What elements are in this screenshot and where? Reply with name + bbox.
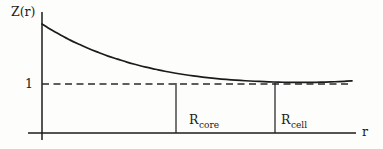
figure-canvas: Z(r) 1 r Rcore Rcell (0, 0, 383, 149)
y-tick-label-one: 1 (25, 78, 33, 91)
x-axis-label: r (362, 126, 368, 139)
y-axis-label: Z(r) (11, 6, 35, 19)
marker-label-r-core-base: R (189, 112, 198, 127)
marker-label-r-cell: Rcell (281, 111, 307, 127)
marker-label-r-cell-base: R (281, 112, 290, 127)
marker-label-r-cell-subscript: cell (291, 120, 307, 130)
z-of-r-curve (42, 24, 352, 82)
marker-label-r-core-subscript: core (199, 120, 219, 130)
marker-label-r-core: Rcore (189, 111, 219, 127)
